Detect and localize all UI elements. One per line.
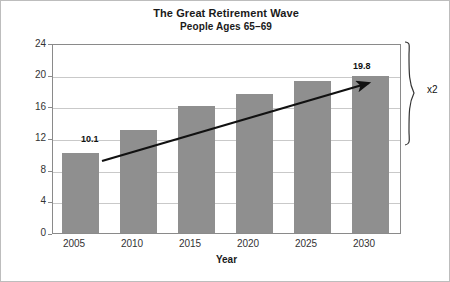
chart-title: The Great Retirement Wave bbox=[1, 7, 450, 19]
x-tick-label: 2020 bbox=[223, 238, 273, 249]
y-tick-label: 8 bbox=[6, 164, 46, 175]
plot-area bbox=[52, 44, 401, 234]
y-tick-mark bbox=[48, 234, 52, 235]
y-tick-label: 24 bbox=[6, 38, 46, 49]
bar-2025[interactable] bbox=[294, 81, 331, 233]
y-tick-label: 4 bbox=[6, 195, 46, 206]
range-brace bbox=[399, 39, 427, 149]
bar-2005[interactable] bbox=[62, 153, 99, 233]
gridline bbox=[53, 140, 400, 141]
x-axis-label: Year bbox=[52, 254, 401, 265]
chart-figure: The Great Retirement Wave People Ages 65… bbox=[0, 0, 450, 282]
x-tick-label: 2015 bbox=[165, 238, 215, 249]
gridline bbox=[53, 77, 400, 78]
y-tick-label: 16 bbox=[6, 101, 46, 112]
chart-subtitle: People Ages 65–69 bbox=[1, 21, 450, 32]
bar-2015[interactable] bbox=[178, 106, 215, 233]
x-tick-label: 2005 bbox=[49, 238, 99, 249]
gridline bbox=[53, 172, 400, 173]
bar-2010[interactable] bbox=[120, 130, 157, 233]
first-value-label: 10.1 bbox=[81, 134, 99, 144]
bar-2020[interactable] bbox=[236, 94, 273, 233]
x-tick-label: 2010 bbox=[107, 238, 157, 249]
y-tick-label: 0 bbox=[6, 227, 46, 238]
gridline bbox=[53, 108, 400, 109]
x-tick-label: 2025 bbox=[281, 238, 331, 249]
x-tick-label: 2030 bbox=[339, 238, 389, 249]
gridline bbox=[53, 203, 400, 204]
bar-2030[interactable] bbox=[352, 76, 389, 233]
growth-multiplier-label: x2 bbox=[427, 84, 438, 95]
last-value-label: 19.8 bbox=[353, 61, 371, 71]
y-tick-label: 20 bbox=[6, 69, 46, 80]
y-tick-label: 12 bbox=[6, 132, 46, 143]
